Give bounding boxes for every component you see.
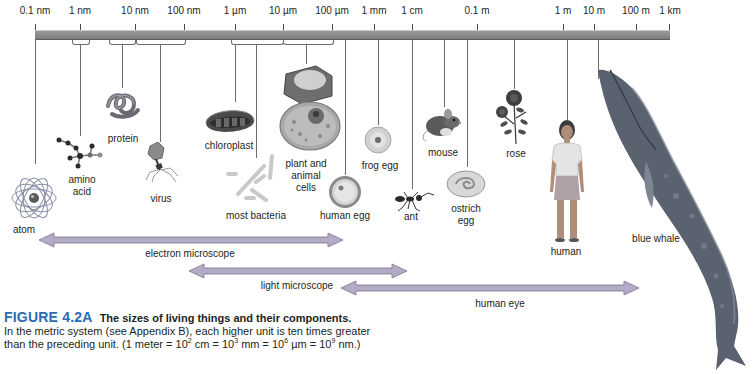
- drop-line-bacteria: [256, 44, 257, 158]
- tick-label-1nm: 1 nm: [69, 5, 91, 16]
- drop-line-chloroplast: [235, 44, 236, 102]
- tick-label-10um: 10 µm: [269, 5, 297, 16]
- human-icon: [546, 120, 588, 244]
- label-virus: virus: [150, 193, 171, 205]
- bracket-amino-acid: [72, 39, 90, 45]
- plant-animal-cells-icon: [276, 62, 344, 152]
- tick-label-1cm: 1 cm: [401, 5, 423, 16]
- amino-acid-icon: [56, 136, 106, 170]
- protein-icon: [104, 88, 142, 120]
- figure-title: The sizes of living things and their com…: [100, 312, 352, 324]
- label-ostrich-egg: ostrich egg: [451, 203, 480, 227]
- figure-caption: FIGURE 4.2A The sizes of living things a…: [4, 311, 464, 351]
- drop-line-atom: [35, 39, 36, 164]
- tick-label-1um: 1 µm: [224, 5, 246, 16]
- label-rose: rose: [506, 148, 525, 160]
- frog-egg-icon: [364, 126, 392, 154]
- label-human: human: [551, 246, 582, 258]
- caption-heading: FIGURE 4.2A The sizes of living things a…: [4, 311, 464, 325]
- drop-line-cells: [306, 44, 307, 64]
- human-eye-range-arrow: [340, 280, 640, 296]
- label-atom: atom: [13, 224, 35, 236]
- drop-line-human: [567, 39, 568, 120]
- label-human-egg: human egg: [320, 210, 370, 222]
- label-mouse: mouse: [428, 147, 458, 159]
- drop-line-ostrich-egg: [467, 39, 468, 167]
- tick-label-100um: 100 µm: [315, 5, 349, 16]
- bracket-chloroplast-bacteria: [231, 39, 284, 45]
- tick-label-10m: 10 m: [583, 5, 605, 16]
- blue-whale-icon: [596, 66, 754, 374]
- tick-label-0-1m: 0.1 m: [464, 5, 489, 16]
- drop-line-virus: [160, 44, 161, 142]
- rose-icon: [494, 88, 532, 146]
- bracket-cells: [283, 39, 334, 45]
- caption-line-2: than the preceding unit. (1 meter = 102 …: [4, 338, 464, 351]
- tick-label-0-1nm: 0.1 nm: [20, 5, 51, 16]
- label-protein: protein: [108, 133, 139, 145]
- label-plant-animal-cells: plant and animal cells: [285, 158, 326, 194]
- ostrich-egg-icon: [446, 170, 486, 198]
- electron-microscope-range-arrow: [38, 232, 344, 248]
- light-microscope-range-arrow: [188, 263, 408, 279]
- tick-label-1mm: 1 mm: [362, 5, 387, 16]
- tick-label-1m: 1 m: [555, 5, 572, 16]
- tick-label-1km: 1 km: [659, 5, 681, 16]
- drop-line-amino-acid: [80, 44, 81, 136]
- tick-label-10nm: 10 nm: [121, 5, 149, 16]
- mouse-icon: [420, 108, 464, 142]
- ant-icon: [392, 190, 436, 212]
- tick-label-100m: 100 m: [622, 5, 650, 16]
- drop-line-frog-egg: [378, 39, 379, 125]
- bracket-virus: [136, 39, 186, 45]
- label-electron-microscope: electron microscope: [145, 248, 234, 259]
- caption-line-1: In the metric system (see Appendix B), e…: [4, 325, 464, 338]
- label-frog-egg: frog egg: [362, 160, 399, 172]
- figure-label: FIGURE 4.2A: [4, 309, 93, 325]
- label-most-bacteria: most bacteria: [226, 210, 286, 222]
- label-blue-whale: blue whale: [632, 233, 680, 245]
- bacteria-icon: [224, 150, 284, 206]
- tick-label-100nm: 100 nm: [167, 5, 200, 16]
- label-human-eye: human eye: [475, 298, 524, 309]
- atom-icon: [6, 172, 62, 224]
- drop-line-rose: [514, 39, 515, 89]
- virus-icon: [140, 142, 184, 184]
- drop-line-human-egg: [345, 39, 346, 175]
- label-light-microscope: light microscope: [261, 280, 333, 291]
- drop-line-protein: [122, 44, 123, 88]
- chloroplast-icon: [204, 103, 256, 137]
- drop-line-mouse: [444, 39, 445, 107]
- label-amino-acid: amino acid: [68, 174, 95, 198]
- human-egg-icon: [328, 175, 362, 209]
- label-ant: ant: [404, 211, 418, 223]
- drop-line-ant: [412, 39, 413, 189]
